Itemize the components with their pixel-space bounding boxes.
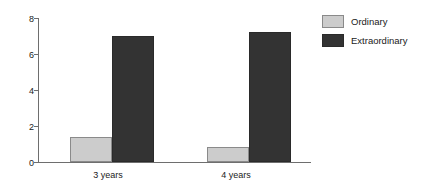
- x-category-label-1: 4 years: [221, 170, 251, 180]
- y-tick-label: 0: [29, 158, 34, 167]
- bar-4-years-ordinary: [207, 147, 249, 162]
- bar-3-years-ordinary: [70, 137, 112, 162]
- plot-area: 8 6 4 2 0 3 years 4 years: [38, 18, 311, 162]
- bars-layer: [38, 18, 311, 162]
- y-tick-label: 4: [29, 86, 34, 95]
- legend-swatch-icon: [322, 34, 344, 47]
- bar-chart: 8 6 4 2 0 3 years 4 years Ord: [0, 0, 432, 191]
- legend-label: Extraordinary: [351, 35, 408, 46]
- legend: Ordinary Extraordinary: [322, 13, 408, 51]
- y-tick-label: 8: [29, 14, 34, 23]
- legend-label: Ordinary: [351, 16, 387, 27]
- bar-3-years-extraordinary: [112, 36, 154, 162]
- x-category-label-0: 3 years: [93, 170, 123, 180]
- y-tick-label: 6: [29, 50, 34, 59]
- bar-4-years-extraordinary: [249, 32, 291, 163]
- legend-swatch-icon: [322, 15, 344, 28]
- legend-item-ordinary[interactable]: Ordinary: [322, 13, 408, 29]
- x-axis-line: [38, 162, 311, 163]
- legend-item-extraordinary[interactable]: Extraordinary: [322, 32, 408, 48]
- y-tick-label: 2: [29, 122, 34, 131]
- y-tick-mark: [34, 162, 38, 163]
